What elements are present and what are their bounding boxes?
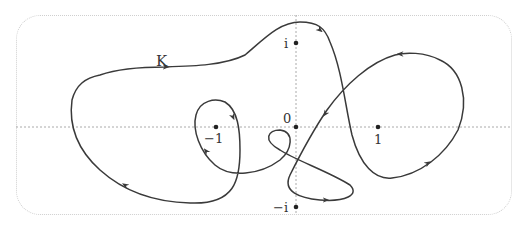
point-minus-one: [214, 125, 219, 130]
label-minus-one: −1: [204, 132, 223, 145]
point-minus-i: [294, 205, 299, 210]
label-i: i: [284, 37, 288, 50]
point-one: [376, 125, 381, 130]
label-minus-i: −i: [273, 201, 288, 214]
point-i: [294, 41, 299, 46]
label-one: 1: [374, 133, 382, 146]
label-zero: 0: [283, 112, 291, 125]
contour-diagram: [0, 0, 529, 232]
curve-label-k: K: [156, 54, 167, 69]
curve-k: [71, 22, 463, 203]
point-zero: [294, 125, 299, 130]
